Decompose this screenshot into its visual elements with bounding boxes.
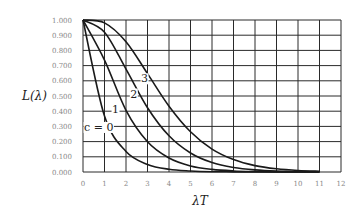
x-tick-label: 9: [274, 180, 278, 188]
x-tick-label: 0: [81, 180, 85, 188]
y-tick-label: 0.000: [52, 169, 72, 177]
y-tick-label: 0.100: [52, 153, 72, 161]
x-tick-label: 11: [315, 180, 324, 188]
y-tick-label: 0.900: [52, 32, 72, 40]
curve-labels: c = 0123: [84, 72, 149, 134]
y-tick-label: 0.400: [52, 108, 72, 116]
x-tick-label: 12: [337, 180, 346, 188]
x-tick-label: 3: [145, 180, 149, 188]
curve-label: 2: [130, 88, 137, 101]
x-tick-label: 7: [231, 180, 235, 188]
x-tick-label: 1: [102, 180, 106, 188]
y-tick-label: 0.800: [52, 47, 72, 55]
y-axis-label: L(λ): [21, 89, 47, 103]
x-tick-label: 2: [124, 180, 128, 188]
y-axis-ticks: 0.0000.1000.2000.3000.4000.5000.6000.700…: [52, 17, 72, 177]
y-tick-label: 0.700: [52, 62, 72, 70]
x-tick-label: 8: [253, 180, 257, 188]
x-tick-label: 4: [167, 180, 172, 188]
y-tick-label: 0.300: [52, 123, 72, 131]
x-axis-label: λT: [191, 194, 209, 208]
y-tick-label: 0.200: [52, 138, 72, 146]
line-chart: 0.0000.1000.2000.3000.4000.5000.6000.700…: [0, 0, 357, 222]
x-tick-label: 6: [210, 180, 215, 188]
curve-label: 1: [112, 103, 119, 116]
y-tick-label: 0.600: [52, 77, 72, 85]
curve-label: 3: [141, 72, 148, 85]
y-tick-label: 0.500: [52, 93, 72, 101]
x-axis-ticks: 0123456789101112: [81, 180, 346, 188]
y-tick-label: 1.000: [52, 17, 72, 25]
curve-label: c = 0: [84, 121, 113, 134]
x-tick-label: 5: [188, 180, 192, 188]
x-tick-label: 10: [294, 180, 303, 188]
